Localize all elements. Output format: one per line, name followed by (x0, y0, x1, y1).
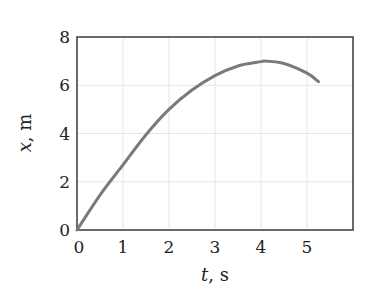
x-tick-label: 3 (210, 237, 221, 257)
grid-lines (77, 37, 353, 230)
x-tick-label: 2 (164, 237, 175, 257)
data-series-line (77, 61, 319, 230)
y-tick-label: 4 (59, 124, 70, 144)
y-tick-label: 6 (59, 75, 70, 95)
y-axis-ticks: 02468 (59, 27, 70, 240)
chart: 012345 02468 t, s x, m (0, 0, 374, 306)
x-axis-label: t, s (201, 264, 229, 285)
y-tick-label: 2 (59, 172, 70, 192)
x-tick-label: 5 (302, 237, 313, 257)
x-tick-label: 0 (74, 237, 85, 257)
x-axis-ticks: 012345 (74, 237, 313, 257)
x-tick-label: 4 (256, 237, 267, 257)
y-tick-label: 8 (59, 27, 70, 47)
x-tick-label: 1 (118, 237, 129, 257)
y-tick-label: 0 (59, 220, 70, 240)
y-axis-label: x, m (14, 114, 35, 153)
